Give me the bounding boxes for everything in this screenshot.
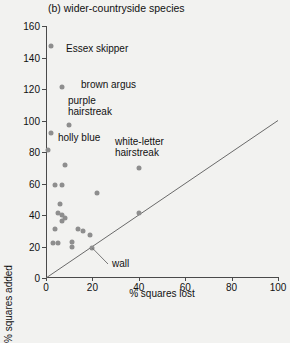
y-axis-title: % squares added [3, 265, 14, 343]
y-tick-label-100: 100 [23, 115, 40, 126]
plot-area: 020406080100120140160 020406080100 Essex… [46, 26, 278, 278]
label-purple-hairstreak: purple hairstreak [68, 95, 112, 117]
y-tick-label-120: 120 [23, 84, 40, 95]
y-tick-label-20: 20 [29, 241, 40, 252]
chart-title: (b) wider-countryside species [48, 2, 185, 14]
label-white-letter-hairstreak: white-letter hairstreak [115, 136, 164, 158]
label-holly-blue: holly blue [58, 132, 100, 143]
y-tick-label-140: 140 [23, 52, 40, 63]
label-essex-skipper: Essex skipper [66, 43, 128, 54]
x-tick-100 [278, 277, 279, 281]
x-tick-label-100: 100 [270, 282, 287, 293]
x-tick-label-0: 0 [43, 282, 49, 293]
y-tick-label-0: 0 [34, 273, 40, 284]
x-tick-label-20: 20 [87, 282, 98, 293]
y-tick-label-80: 80 [29, 147, 40, 158]
label-brown-argus: brown argus [81, 79, 136, 90]
x-axis-title: % squares lost [129, 288, 195, 299]
label-wall: wall [112, 258, 129, 269]
y-tick-label-60: 60 [29, 178, 40, 189]
y-tick-label-40: 40 [29, 210, 40, 221]
y-tick-label-160: 160 [23, 21, 40, 32]
x-tick-label-80: 80 [226, 282, 237, 293]
